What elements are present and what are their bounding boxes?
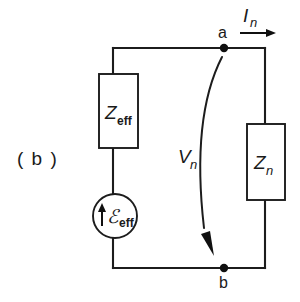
terminal-label-a: a [218,24,227,41]
zn-symbol: Z [253,152,267,173]
curved-arrow-down-icon [200,57,222,256]
zn-subscript: n [266,163,273,178]
current-symbol: I [243,5,249,26]
panel-label: ( b ) [17,148,58,169]
zeff-subscript: eff [117,114,133,128]
current-subscript: n [250,15,257,30]
terminal-label-b: b [219,274,228,291]
voltage-subscript: n [190,157,197,172]
zeff-symbol: Z [104,102,118,123]
junction-dot-icon-b [220,264,228,272]
circuit-figure: Z eff ℰ eff Z n a b I n V [0,0,300,302]
arrow-right-icon [240,29,276,37]
circuit-diagram-canvas: Z eff ℰ eff Z n a b I n V [0,0,300,302]
impedance-box-zn [247,124,285,200]
junction-dot-icon-a [220,44,228,52]
emf-subscript: eff [119,216,135,230]
